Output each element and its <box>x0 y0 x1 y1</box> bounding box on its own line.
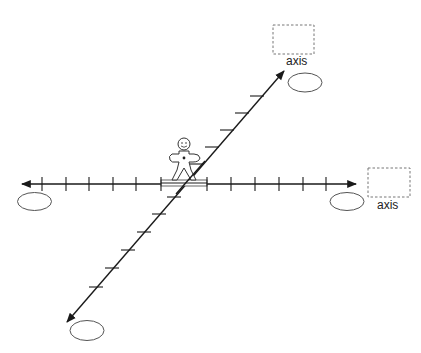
axes-diagram <box>0 0 421 353</box>
answer-ellipse-right[interactable] <box>330 193 364 211</box>
answer-ellipse-left[interactable] <box>18 193 52 211</box>
horizontal-axis-label-box[interactable] <box>368 168 410 197</box>
horizontal-axis-caption: axis <box>377 199 398 211</box>
diagonal-axis-caption: axis <box>286 55 307 67</box>
answer-ellipse-upper[interactable] <box>288 73 322 92</box>
diagonal-axis <box>67 71 284 322</box>
figure-dot <box>183 157 186 160</box>
answer-ellipse-lower[interactable] <box>70 321 104 341</box>
diagonal-axis-label-box[interactable] <box>273 25 314 54</box>
figure-head <box>178 138 190 150</box>
